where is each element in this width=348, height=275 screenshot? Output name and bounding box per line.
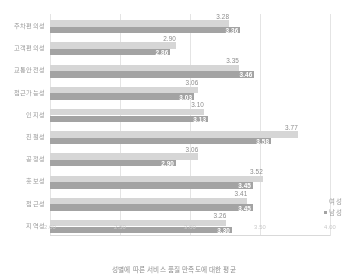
chart-caption: 성별에 따른 서비스 품질 만족도에 대한 평균 (0, 264, 348, 274)
bar-value-label: 3.46 (240, 71, 253, 78)
bar-value-label: 3.06 (186, 146, 199, 153)
category-label: 홍보성 (26, 176, 45, 185)
bar-value-label: 3.52 (250, 168, 263, 175)
legend-label-male: 남성 (329, 208, 342, 217)
bar-value-label: 3.26 (214, 212, 227, 219)
bar-value-label: 3.30 (217, 226, 230, 233)
legend-swatch-female-icon (324, 200, 327, 203)
bar-male[interactable]: 3.45 (50, 204, 253, 210)
bar-value-label: 2.86 (156, 49, 169, 56)
bar-group-row: 공정성3.062.90 (50, 147, 330, 169)
bar-male[interactable]: 3.13 (50, 116, 208, 122)
bar-value-label: 3.06 (186, 79, 199, 86)
x-tick-label: 2.00 (44, 224, 56, 230)
bar-male[interactable]: 2.86 (50, 49, 170, 55)
legend-label-female: 여성 (329, 197, 342, 206)
bar-group-row: 인지성3.103.13 (50, 103, 330, 125)
bar-group-row: 고객편의성2.902.86 (50, 36, 330, 58)
bar-group-row: 친절성3.773.58 (50, 125, 330, 147)
bar-value-label: 3.13 (193, 115, 206, 122)
bar-female[interactable]: 3.26 (50, 220, 226, 226)
category-label: 친절성 (26, 132, 45, 141)
x-tick-label: 2.50 (114, 224, 126, 230)
bar-male[interactable]: 3.58 (50, 138, 271, 144)
category-label: 공정성 (26, 154, 45, 163)
bar-female[interactable]: 3.35 (50, 65, 239, 71)
bar-female[interactable]: 3.52 (50, 176, 263, 182)
category-label: 지역성 (26, 220, 45, 229)
category-label: 접근가능성 (14, 87, 45, 96)
bar-male[interactable]: 3.46 (50, 71, 254, 77)
bar-male[interactable]: 3.36 (50, 27, 240, 33)
horizontal-grouped-bar-chart: 주차편의성3.283.36고객편의성2.902.86교통안전성3.353.46접… (0, 0, 348, 275)
bar-value-label: 3.35 (226, 57, 239, 64)
x-tick-label: 3.00 (184, 224, 196, 230)
legend-item-male[interactable]: 남성 (324, 207, 342, 218)
bar-female[interactable]: 3.10 (50, 109, 204, 115)
category-label: 고객편의성 (14, 43, 45, 52)
bar-value-label: 3.77 (285, 124, 298, 131)
legend-item-female[interactable]: 여성 (324, 196, 342, 207)
bar-group-row: 접근가능성3.063.03 (50, 81, 330, 103)
x-axis-baseline (50, 235, 330, 236)
bar-value-label: 3.58 (256, 137, 269, 144)
bar-group-row: 홍보성3.523.45 (50, 169, 330, 191)
bar-female[interactable]: 3.28 (50, 20, 229, 26)
bar-male[interactable]: 3.03 (50, 93, 194, 99)
bar-group-row: 주차편의성3.283.36 (50, 14, 330, 36)
bar-female[interactable]: 3.41 (50, 198, 247, 204)
bar-male[interactable]: 2.90 (50, 160, 176, 166)
x-tick-label: 4.00 (324, 224, 336, 230)
category-label: 주차편의성 (14, 21, 45, 30)
category-label: 접근성 (26, 198, 45, 207)
bar-value-label: 3.41 (235, 190, 248, 197)
bar-value-label: 3.36 (226, 26, 239, 33)
bar-value-label: 2.90 (163, 35, 176, 42)
bar-male[interactable]: 3.45 (50, 182, 253, 188)
x-tick-label: 3.50 (254, 224, 266, 230)
legend-swatch-male-icon (324, 211, 327, 214)
chart-legend: 여성 남성 (324, 196, 342, 218)
bar-male[interactable]: 3.30 (50, 227, 232, 233)
bar-group-row: 교통안전성3.353.46 (50, 58, 330, 80)
category-label: 인지성 (26, 109, 45, 118)
bar-value-label: 3.45 (238, 204, 251, 211)
category-label: 교통안전성 (14, 65, 45, 74)
plot-area: 주차편의성3.283.36고객편의성2.902.86교통안전성3.353.46접… (50, 14, 330, 236)
bar-value-label: 3.28 (216, 13, 229, 20)
bar-value-label: 3.45 (238, 182, 251, 189)
bar-female[interactable]: 3.06 (50, 87, 198, 93)
bar-value-label: 3.03 (179, 93, 192, 100)
bar-group-row: 접근성3.413.45 (50, 192, 330, 214)
bar-female[interactable]: 3.06 (50, 153, 198, 159)
bar-value-label: 2.90 (161, 160, 174, 167)
bar-value-label: 3.10 (191, 101, 204, 108)
